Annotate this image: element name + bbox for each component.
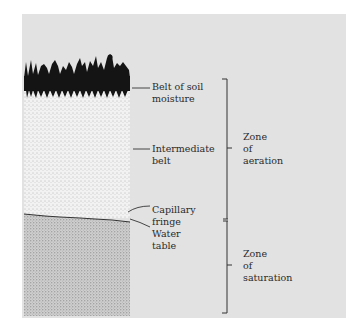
label-zone-of-aeration: Zone of aeration (243, 131, 283, 167)
aeration-soil (24, 88, 130, 218)
label-line: Intermediate (152, 143, 215, 155)
label-line: moisture (152, 93, 203, 105)
label-belt-of-soil-moisture: Belt of soil moisture (152, 81, 203, 105)
leader-capillary (128, 206, 150, 212)
label-line: fringe (152, 216, 196, 228)
label-line: saturation (243, 272, 292, 284)
label-line: belt (152, 155, 215, 167)
label-line: of (243, 143, 283, 155)
label-line: Water (152, 228, 181, 240)
vegetation-icon (24, 54, 130, 98)
label-intermediate-belt: Intermediate belt (152, 143, 215, 167)
label-zone-of-saturation: Zone of saturation (243, 248, 292, 284)
label-water-table: Water table (152, 228, 181, 252)
saturation-soil (24, 214, 130, 316)
label-line: Belt of soil (152, 81, 203, 93)
label-line: Capillary (152, 204, 196, 216)
label-line: aeration (243, 155, 283, 167)
label-line: Zone (243, 131, 283, 143)
label-line: table (152, 240, 181, 252)
label-line: Zone (243, 248, 292, 260)
label-capillary-fringe: Capillary fringe (152, 204, 196, 228)
zone-brackets (222, 79, 232, 313)
label-line: of (243, 260, 292, 272)
leader-water-table (130, 219, 150, 227)
